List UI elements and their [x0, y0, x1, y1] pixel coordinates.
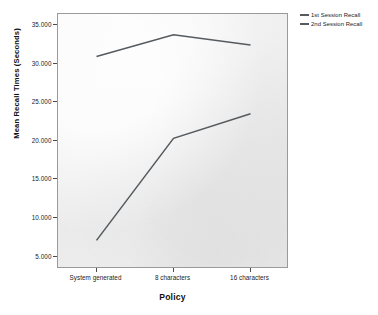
x-axis-tick-mark: [250, 268, 251, 272]
y-axis: Mean Recall Times (Seconds) 35.00030.000…: [0, 0, 57, 281]
y-axis-title: Mean Recall Times (Seconds): [12, 4, 21, 164]
series-container: [58, 14, 288, 268]
plot-area: [57, 13, 288, 268]
y-axis-tick-label: 15.000: [32, 174, 52, 184]
legend-line-swatch-icon: [300, 23, 309, 24]
y-axis-tick-label: 5.000: [35, 252, 51, 262]
legend-item-label: 1st Session Recall: [311, 12, 360, 18]
y-axis-tick: 10.000: [32, 213, 57, 223]
x-axis-tick-mark: [173, 268, 174, 272]
y-axis-tick: 30.000: [32, 58, 57, 68]
legend-item-2nd-session-recall[interactable]: 2nd Session Recall: [300, 20, 376, 28]
x-axis-tick-label: 8 characters: [155, 274, 190, 281]
legend: 1st Session Recall 2nd Session Recall: [300, 11, 376, 29]
x-axis: System generated8 characters16 character…: [57, 268, 288, 288]
y-axis-tick: 25.000: [32, 97, 57, 107]
y-axis-tick-label: 30.000: [32, 59, 52, 69]
x-axis-tick-mark: [96, 268, 97, 272]
legend-item-label: 2nd Session Recall: [311, 21, 362, 27]
y-axis-tick-label: 20.000: [32, 136, 52, 146]
y-axis-tick: 35.000: [32, 20, 57, 30]
legend-item-1st-session-recall[interactable]: 1st Session Recall: [300, 11, 376, 19]
y-axis-tick-label: 10.000: [32, 213, 52, 223]
x-axis-tick-label: 16 characters: [230, 274, 269, 281]
line-chart-figure: Mean Recall Times (Seconds) 35.00030.000…: [0, 0, 378, 315]
y-axis-tick: 20.000: [32, 136, 57, 146]
y-axis-tick: 5.000: [35, 251, 57, 261]
x-axis-title: Policy: [57, 292, 288, 302]
series-line-2nd-session-recall: [97, 35, 251, 57]
x-axis-tick-label: System generated: [70, 274, 122, 281]
legend-line-swatch-icon: [300, 14, 309, 15]
series-line-1st-session-recall: [97, 114, 251, 241]
y-axis-tick-label: 35.000: [32, 20, 52, 30]
y-axis-tick: 15.000: [32, 174, 57, 184]
y-axis-tick-label: 25.000: [32, 97, 52, 107]
